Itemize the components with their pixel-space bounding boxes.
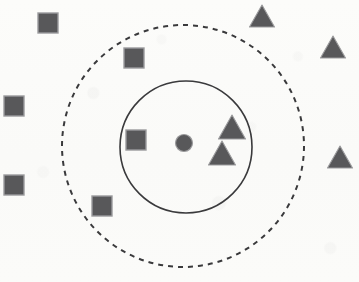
triangle-outside-right-upper	[321, 36, 346, 58]
triangle-outside-top	[250, 5, 275, 27]
triangle-inner-core-lower	[209, 141, 236, 165]
square-outside-top-left	[38, 13, 58, 33]
triangle-outside-right-lower	[328, 146, 353, 168]
triangle-inner-core-upper	[219, 115, 246, 139]
square-outside-left-lower	[4, 175, 24, 195]
centroid-group	[176, 135, 193, 152]
triangles-group	[209, 5, 353, 168]
square-outside-left-upper	[4, 96, 24, 116]
diagram-canvas	[0, 0, 359, 282]
square-inner-core	[126, 130, 146, 150]
squares-group	[4, 13, 146, 216]
square-ring-bottom	[92, 196, 112, 216]
square-ring-top	[124, 48, 144, 68]
centroid-marker	[176, 135, 193, 152]
diagram-vector-layer	[0, 0, 359, 282]
